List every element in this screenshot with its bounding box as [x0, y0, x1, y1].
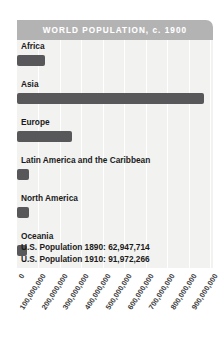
bar-north-america: [17, 207, 29, 218]
plot-area: Africa Asia Europe Latin America and the…: [17, 40, 213, 268]
bar-row: Africa: [17, 40, 213, 78]
bar-row: North America: [17, 192, 213, 230]
bar-latin-america-and-the-caribbean: [17, 169, 29, 180]
x-tick-text: 0: [17, 272, 27, 280]
world-population-chart: WORLD POPULATION, c. 1900 Africa Asia Eu…: [0, 0, 223, 339]
chart-title-band: WORLD POPULATION, c. 1900: [17, 20, 213, 40]
bar-row: Asia: [17, 78, 213, 116]
bar-category-label: Latin America and the Caribbean: [21, 155, 150, 165]
x-tick-label: 0: [19, 269, 29, 277]
bar-row: Europe: [17, 116, 213, 154]
bar-row: Latin America and the Caribbean: [17, 154, 213, 192]
page-title: WORLD POPULATION, c. 1900: [43, 26, 187, 35]
bar-category-label: Europe: [21, 117, 50, 127]
bar-category-label: North America: [21, 193, 78, 203]
bar-europe: [17, 131, 72, 142]
x-axis-tick-labels: 0 100,000,000 200,000,000 300,000,000 40…: [0, 268, 223, 339]
bar-category-label: Africa: [21, 41, 45, 51]
bar-africa: [17, 55, 45, 66]
bar-asia: [17, 93, 204, 104]
bar-category-label: Asia: [21, 79, 39, 89]
bar-category-label: Oceania: [21, 231, 53, 241]
